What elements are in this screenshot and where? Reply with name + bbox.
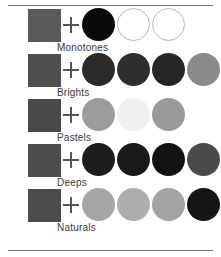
accent-color-dot[interactable] bbox=[187, 53, 220, 86]
base-color-square[interactable] bbox=[28, 54, 61, 87]
base-color-square[interactable] bbox=[28, 99, 61, 132]
accent-color-dot[interactable] bbox=[117, 53, 150, 86]
palette-row: Monotones bbox=[0, 8, 221, 53]
palette-row: Deeps bbox=[0, 143, 221, 188]
accent-color-dots bbox=[82, 53, 221, 89]
accent-color-dot[interactable] bbox=[117, 98, 150, 131]
accent-color-dot[interactable] bbox=[152, 53, 185, 86]
accent-color-dot[interactable] bbox=[152, 188, 185, 221]
base-color-square[interactable] bbox=[28, 144, 61, 177]
palette-row: Pastels bbox=[0, 98, 221, 143]
accent-color-dot[interactable] bbox=[82, 188, 115, 221]
accent-color-dot[interactable] bbox=[117, 143, 150, 176]
base-color-square[interactable] bbox=[28, 189, 61, 222]
accent-color-dot[interactable] bbox=[117, 8, 150, 41]
plus-icon bbox=[63, 197, 79, 213]
plus-icon bbox=[63, 107, 79, 123]
accent-color-dots bbox=[82, 98, 221, 134]
plus-icon bbox=[63, 152, 79, 168]
accent-color-dot[interactable] bbox=[187, 188, 220, 221]
accent-color-dots bbox=[82, 8, 221, 44]
accent-color-dot[interactable] bbox=[82, 53, 115, 86]
palette-figure: MonotonesBrightsPastelsDeepsNaturals bbox=[0, 0, 221, 257]
accent-color-dot[interactable] bbox=[187, 143, 220, 176]
accent-color-dot[interactable] bbox=[82, 8, 115, 41]
accent-color-dots bbox=[82, 188, 221, 224]
accent-color-dot[interactable] bbox=[117, 188, 150, 221]
plus-icon bbox=[63, 62, 79, 78]
base-color-square[interactable] bbox=[28, 9, 61, 42]
accent-color-dot[interactable] bbox=[82, 98, 115, 131]
palette-group-label: Naturals bbox=[57, 222, 96, 234]
accent-color-dot[interactable] bbox=[152, 8, 185, 41]
top-divider-rule bbox=[8, 5, 213, 6]
plus-icon bbox=[63, 17, 79, 33]
accent-color-dot[interactable] bbox=[152, 143, 185, 176]
accent-color-dots bbox=[82, 143, 221, 179]
palette-row-list: MonotonesBrightsPastelsDeepsNaturals bbox=[0, 8, 221, 233]
palette-row: Naturals bbox=[0, 188, 221, 233]
bottom-divider-rule bbox=[8, 250, 213, 251]
palette-row: Brights bbox=[0, 53, 221, 98]
accent-color-dot[interactable] bbox=[152, 98, 185, 131]
accent-color-dot[interactable] bbox=[82, 143, 115, 176]
